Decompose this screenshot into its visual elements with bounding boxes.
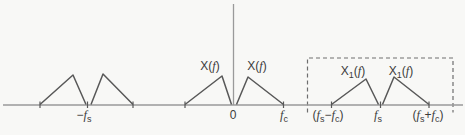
label-neg-fs: −fs — [77, 109, 92, 123]
label-x1f-right: X1(f) — [389, 65, 414, 79]
label-fs-plus-fc: (fs+fc) — [413, 109, 444, 123]
label-fs-minus-fc: (fs−fc) — [313, 109, 344, 123]
label-xf-left: X(f) — [200, 60, 219, 73]
label-fs: fs — [374, 109, 382, 123]
label-x1f-left: X1(f) — [341, 65, 366, 79]
triangle-neg-fs-upper — [91, 74, 133, 105]
triangle-baseband-left — [185, 76, 232, 105]
spectrum-diagram: X(f) X(f) X1(f) X1(f) −fs 0 fc (fs−fc) f… — [0, 0, 465, 135]
triangle-fs-lower — [332, 79, 379, 105]
label-xf-right: X(f) — [247, 60, 266, 73]
triangle-baseband-right — [237, 77, 284, 105]
triangle-fs-upper — [383, 77, 430, 105]
label-zero: 0 — [230, 109, 237, 122]
triangle-neg-fs-lower — [40, 75, 86, 105]
label-fc: fc — [280, 109, 288, 123]
